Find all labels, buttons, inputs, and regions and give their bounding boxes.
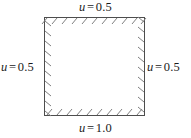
boundary-label-right: u=0.5 [147, 61, 180, 74]
boundary-label-top: u=0.5 [0, 1, 191, 14]
boundary-label-top-equals: = [87, 0, 94, 14]
boundary-label-left-equals: = [9, 60, 16, 74]
boundary-label-left-value: 0.5 [18, 60, 34, 74]
boundary-label-right-variable: u [147, 60, 153, 74]
boundary-label-left-variable: u [1, 60, 7, 74]
boundary-label-left: u=0.5 [1, 61, 34, 74]
boundary-label-top-value: 0.5 [96, 0, 112, 14]
boundary-label-right-value: 0.5 [164, 60, 180, 74]
square-domain-outline [45, 18, 145, 116]
boundary-label-bottom: u=1.0 [0, 122, 191, 135]
boundary-label-top-variable: u [79, 0, 85, 14]
boundary-label-bottom-value: 1.0 [96, 121, 112, 135]
boundary-condition-figure: u=0.5 u=0.5 u=0.5 u=1.0 [0, 0, 191, 138]
boundary-label-right-equals: = [155, 60, 162, 74]
boundary-label-bottom-equals: = [87, 121, 94, 135]
boundary-label-bottom-variable: u [79, 121, 85, 135]
